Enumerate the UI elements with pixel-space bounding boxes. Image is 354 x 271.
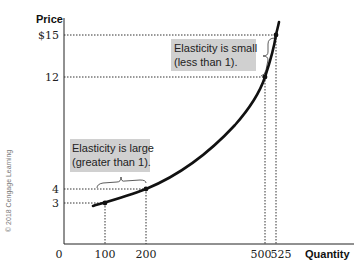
point-200-4 (144, 187, 149, 192)
y-axis-title: Price (36, 13, 63, 25)
annotation-small-line1: Elasticity is small (174, 42, 257, 54)
x-tick-200: 200 (136, 248, 157, 261)
y-tick-12: 12 (45, 71, 59, 84)
point-525-15 (274, 33, 279, 38)
brace-large-icon (97, 177, 146, 188)
annotation-small-line2: (less than 1). (174, 56, 238, 68)
y-tick-3: 3 (52, 197, 59, 210)
x-tick-0: 0 (56, 248, 63, 261)
x-tick-500: 500 (251, 248, 272, 261)
annotation-large-line2: (greater than 1). (72, 156, 151, 168)
x-tick-100: 100 (95, 248, 116, 261)
copyright-credit: © 2018 Cengage Learning (5, 150, 13, 232)
x-tick-525: 525 (271, 248, 292, 261)
y-tick-4: 4 (52, 183, 59, 196)
point-500-12 (263, 75, 268, 80)
point-100-3 (103, 201, 108, 206)
elasticity-chart: Price Quantity $15 12 4 3 0 100 200 500 … (0, 0, 354, 271)
x-axis-title: Quantity (305, 248, 350, 260)
annotation-large-line1: Elasticity is large (72, 142, 154, 154)
y-tick-15: $15 (38, 29, 59, 42)
